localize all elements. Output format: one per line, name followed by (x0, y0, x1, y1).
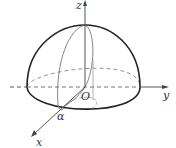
origin-label: O (81, 90, 90, 103)
dome-outline (27, 25, 140, 87)
angle-label: α (57, 110, 65, 123)
base-ellipse-back (27, 68, 140, 87)
hemisphere-diagram: z y x O α (0, 0, 176, 148)
y-axis-label: y (162, 89, 170, 102)
z-axis-arrow (83, 0, 87, 6)
x-axis-label: x (36, 136, 43, 148)
z-axis-label: z (75, 0, 82, 12)
